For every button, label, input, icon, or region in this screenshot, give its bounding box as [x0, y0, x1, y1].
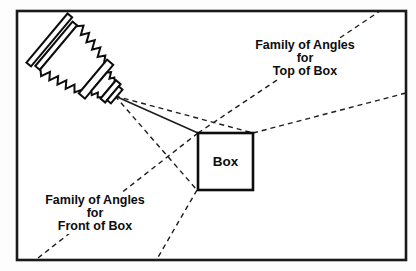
box-label: Box: [198, 133, 253, 190]
top-family-label: Family of Angles for Top of Box: [241, 38, 369, 79]
figure-canvas: Family of Angles for Top of Box Family o…: [0, 0, 416, 271]
top-family-label-line3: Top of Box: [243, 65, 367, 78]
front-family-label: Family of Angles for Front of Box: [27, 193, 163, 234]
front-family-label-line3: Front of Box: [29, 220, 161, 233]
